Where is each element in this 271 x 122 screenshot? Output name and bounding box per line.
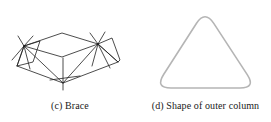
brace-member: [17, 62, 118, 83]
brace-member: [12, 46, 24, 60]
figure-panel-brace: (c) Brace: [0, 0, 140, 122]
rounded-triangle-outline: [140, 0, 271, 100]
brace-member: [24, 46, 30, 69]
caption-brace: (c) Brace: [0, 100, 140, 112]
brace-member: [90, 33, 98, 44]
brace-member: [24, 33, 98, 46]
brace-wireframe-lines: [12, 32, 120, 90]
outer-column-cross-section-path: [161, 17, 251, 88]
brace-member: [18, 36, 24, 46]
figure-panel-column: (d) Shape of outer column: [140, 0, 271, 122]
caption-column: (d) Shape of outer column: [140, 100, 271, 112]
figure-root: (c) Brace (d) Shape of outer column: [0, 0, 271, 122]
brace-member: [98, 44, 110, 68]
brace-truss-line-drawing: [0, 0, 140, 100]
